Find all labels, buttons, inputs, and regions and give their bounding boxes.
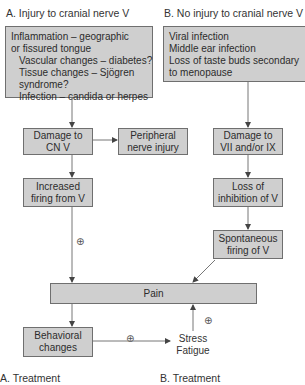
flow-arrows xyxy=(0,0,305,385)
treatment-b-label: B. Treatment xyxy=(160,372,220,384)
treatment-a-label: A. Treatment xyxy=(0,372,60,384)
